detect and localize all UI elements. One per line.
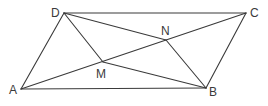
label-a: A xyxy=(9,83,17,97)
diagram-svg: A B C D M N xyxy=(0,0,268,106)
parallelogram-diagram: A B C D M N xyxy=(0,0,268,106)
diagonal-ac xyxy=(21,13,246,89)
label-b: B xyxy=(209,85,217,99)
label-d: D xyxy=(51,6,60,20)
label-c: C xyxy=(250,6,259,20)
label-n: N xyxy=(161,24,170,38)
segment-nb xyxy=(166,40,206,88)
side-ab xyxy=(21,88,206,89)
label-m: M xyxy=(96,67,106,81)
segment-dm xyxy=(64,13,103,62)
segment-mb xyxy=(103,62,206,88)
side-da xyxy=(21,13,64,89)
segment-dn xyxy=(64,13,166,40)
